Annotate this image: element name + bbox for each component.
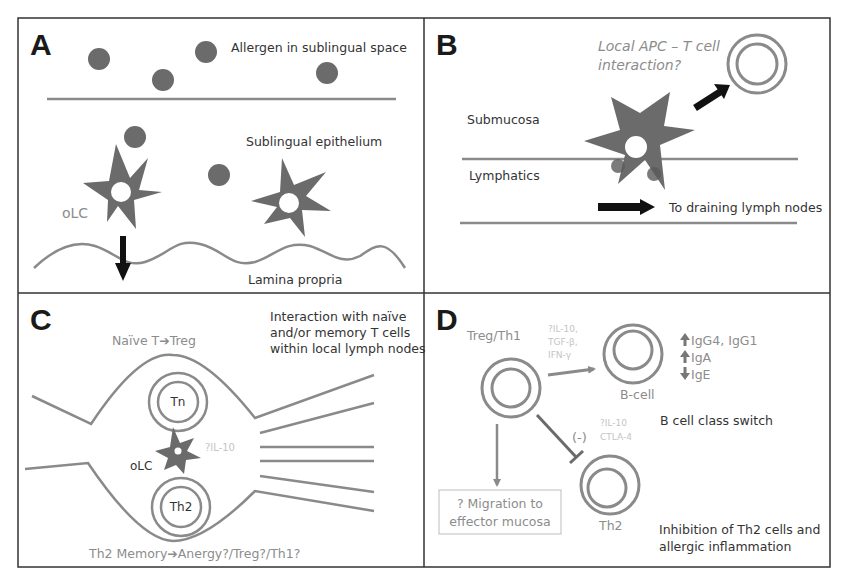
arrow-up-icon <box>680 350 690 363</box>
allergen-particle <box>316 62 338 84</box>
submucosa-label: Submucosa <box>467 112 540 127</box>
panel-d: D Treg/Th1 ?IL-10, TGF-β, IFN-γ B-cell I… <box>436 303 820 554</box>
lymph-title-line3: within local lymph nodes <box>270 341 426 356</box>
efferent-vessel-line <box>260 403 374 433</box>
b-cell-label: B-cell <box>620 387 655 402</box>
arrow-right-icon <box>640 199 655 215</box>
inhibit-cytokine-label: ?IL-10 <box>600 418 627 428</box>
arrow-shaft <box>695 92 720 108</box>
efferent-vessel-line <box>260 476 374 492</box>
inhibition-label-line2: allergic inflammation <box>659 539 791 554</box>
arrow-to-b-cell <box>548 369 594 375</box>
arrow-up-icon <box>680 333 690 346</box>
inhibition-label-line1: Inhibition of Th2 cells and <box>659 522 820 537</box>
tn-label: Tn <box>170 395 186 409</box>
olc-nucleus <box>111 182 131 202</box>
cytokine-label: ?IL-10, <box>548 324 578 334</box>
ig-list: IgG4, IgG1 IgA IgE <box>680 333 757 382</box>
allergen-particle <box>124 126 146 148</box>
basement-membrane-line <box>34 243 405 268</box>
treg-cell-nucleus <box>492 369 530 407</box>
treg-th1-label: Treg/Th1 <box>466 328 521 343</box>
inhibit-cytokine-label: CTLA-4 <box>600 432 632 442</box>
migration-label-line1: ? Migration to <box>457 496 543 511</box>
cytokine-label: TGF-β, <box>547 337 578 347</box>
th2-memory-outcome-label: Th2 Memory➔Anergy?/Treg?/Th1? <box>88 546 300 561</box>
ig-item-label: IgG4, IgG1 <box>691 333 757 348</box>
allergen-particle <box>88 48 110 70</box>
th2-label: Th2 <box>598 518 623 533</box>
olc-label: oLC <box>130 459 152 473</box>
cytokine-label: IFN-γ <box>548 350 572 360</box>
allergen-particle <box>208 164 230 186</box>
il10-label: ?IL-10 <box>205 442 235 453</box>
lymphatics-label: Lymphatics <box>469 168 540 183</box>
apc-question-line2: interaction? <box>598 57 682 73</box>
allergen-in-apc <box>647 167 661 181</box>
olc-nucleus <box>279 193 299 213</box>
b-cell-nucleus <box>614 331 652 369</box>
panel-a: A Allergen in sublingual space Sublingua… <box>30 28 407 287</box>
t-cell-nucleus <box>737 44 777 84</box>
epithelium-label: Sublingual epithelium <box>246 134 382 149</box>
arrow-shaft <box>598 203 642 211</box>
olc-nucleus <box>175 448 182 455</box>
naive-treg-label: Naïve T➔Treg <box>112 333 196 348</box>
apc-nucleus <box>625 136 647 158</box>
allergen-particle <box>152 69 174 91</box>
class-switch-label: B cell class switch <box>660 413 773 428</box>
allergen-in-apc <box>611 159 625 173</box>
migration-label-line2: effector mucosa <box>449 514 550 529</box>
olc-label: oLC <box>62 205 88 221</box>
lymph-title-line1: Interaction with naïve <box>270 309 407 324</box>
allergen-particle <box>195 41 217 63</box>
panel-b: B Local APC – T cell interaction? Submuc… <box>436 28 822 223</box>
panel-letter-d: D <box>436 303 458 336</box>
panel-letter-a: A <box>30 28 52 61</box>
panel-c: C Interaction with naïve and/or memory T… <box>25 303 426 561</box>
panel-letter-b: B <box>436 28 458 61</box>
panel-letter-c: C <box>30 303 52 336</box>
down-arrow-icon <box>115 263 131 281</box>
ig-item-label: IgA <box>691 350 712 365</box>
lamina-propria-label: Lamina propria <box>248 272 342 287</box>
inhibition-line <box>537 415 576 457</box>
allergen-label: Allergen in sublingual space <box>231 40 407 55</box>
ig-item-label: IgE <box>691 367 711 382</box>
th2-label: Th2 <box>169 500 193 514</box>
inhibit-sign: (-) <box>572 430 587 445</box>
apc-question-line1: Local APC – T cell <box>598 38 720 54</box>
lymph-title-line2: and/or memory T cells <box>270 325 410 340</box>
draining-lymph-label: To draining lymph nodes <box>668 200 822 215</box>
down-arrow-shaft <box>120 236 126 264</box>
b-cell-icon <box>604 325 662 383</box>
figure-canvas: A Allergen in sublingual space Sublingua… <box>0 0 848 585</box>
arrow-down-icon <box>680 367 690 380</box>
th2-cell-nucleus <box>588 469 626 507</box>
